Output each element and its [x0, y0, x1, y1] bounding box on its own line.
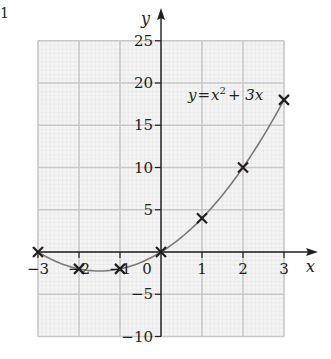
y-tick-label: 15 [134, 116, 153, 134]
y-tick-label: 25 [134, 32, 153, 50]
y-tick-label: 20 [134, 74, 153, 92]
question-number: 1 [0, 5, 9, 21]
y-tick-label: −10 [121, 328, 153, 346]
x-tick-label: 1 [197, 260, 207, 278]
x-tick-label: 0 [142, 260, 152, 278]
x-tick-label: −2 [68, 260, 90, 278]
x-axis-label: x [306, 257, 315, 276]
x-tick-label: −3 [27, 260, 49, 278]
y-tick-label: 5 [143, 201, 153, 219]
y-tick-label: 10 [134, 159, 153, 177]
y-axis-label: y [140, 9, 151, 28]
y-tick-label: −5 [131, 285, 153, 303]
quadratic-graph: −3−2−10123−10−5510152025 1 y x y=x2+ 3x [0, 0, 331, 359]
x-tick-label: −1 [109, 260, 131, 278]
x-tick-label: 2 [238, 260, 248, 278]
x-tick-label: 3 [279, 260, 289, 278]
